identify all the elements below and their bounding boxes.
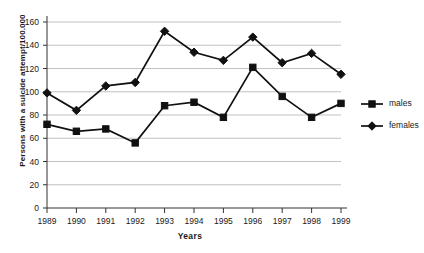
plot-area: 020406080100120140160 198919901991199219… [0,0,424,253]
data-point [43,89,51,97]
line-chart: Persons with a suicide attempt/100.000 Y… [0,0,424,253]
x-tick-label: 1994 [185,216,204,226]
x-tick-label: 1997 [273,216,292,226]
y-tick-label: 60 [30,133,40,143]
x-tick-label: 1991 [96,216,115,226]
x-tick-label: 1992 [126,216,145,226]
y-tick-label: 140 [25,40,39,50]
data-point [250,64,256,70]
data-point [44,121,50,127]
y-axis-ticks: 020406080100120140160 [25,17,47,213]
data-point [132,140,138,146]
legend-label: females [389,120,419,130]
x-tick-label: 1999 [332,216,351,226]
data-point [103,126,109,132]
series-males [44,64,344,146]
data-point [131,78,139,86]
y-tick-label: 160 [25,17,39,27]
y-tick-label: 40 [30,157,40,167]
legend-label: males [389,98,412,108]
data-point [191,99,197,105]
x-tick-label: 1998 [302,216,321,226]
series-line-females [47,31,341,110]
x-tick-label: 1990 [67,216,86,226]
data-point [308,114,314,120]
chart-legend: malesfemales [361,98,419,130]
y-tick-label: 80 [30,110,40,120]
data-point [161,103,167,109]
data-point [279,93,285,99]
legend-swatch-marker [369,101,375,107]
y-tick-label: 0 [34,203,39,213]
y-tick-label: 120 [25,64,39,74]
data-point [338,100,344,106]
x-tick-label: 1993 [155,216,174,226]
x-axis-ticks: 1989199019911992199319941995199619971998… [38,208,351,226]
data-point [73,128,79,134]
x-tick-label: 1996 [243,216,262,226]
y-tick-label: 100 [25,87,39,97]
legend-swatch-marker [368,122,376,130]
x-tick-label: 1995 [214,216,233,226]
y-tick-label: 20 [30,180,40,190]
data-point [220,114,226,120]
x-tick-label: 1989 [38,216,57,226]
